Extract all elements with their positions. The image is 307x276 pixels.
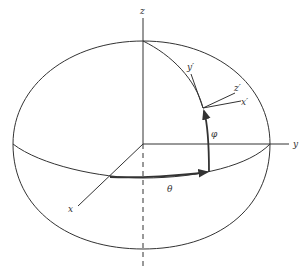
equator — [13, 144, 270, 178]
y-axis-label: y — [292, 139, 299, 149]
y-prime-axis — [191, 74, 203, 108]
spherical-coordinate-diagram: z y x φ θ y′ z′ x′ — [0, 0, 307, 276]
y-prime-label: y′ — [186, 62, 194, 72]
x-prime-label: x′ — [241, 97, 248, 107]
x-axis — [78, 144, 143, 206]
z-axis-label: z — [139, 6, 145, 16]
z-prime-axis — [203, 93, 235, 108]
x-prime-axis — [203, 101, 241, 108]
meridian-curve — [143, 41, 203, 108]
phi-label: φ — [211, 129, 218, 139]
z-prime-label: z′ — [233, 83, 241, 93]
theta-label: θ — [167, 184, 173, 194]
phi-arc — [204, 111, 209, 172]
theta-arc — [110, 172, 207, 177]
x-axis-label: x — [68, 204, 73, 214]
